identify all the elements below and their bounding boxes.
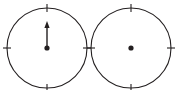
dial-diagram-svg: [0, 0, 176, 90]
figure-canvas: [0, 0, 176, 90]
dial-center-dot: [44, 45, 49, 50]
dial-center-dot: [128, 45, 133, 50]
right-dial: [87, 4, 175, 90]
left-dial: [3, 4, 91, 90]
vector-arrowhead: [44, 21, 49, 28]
dial-group: [3, 4, 175, 90]
